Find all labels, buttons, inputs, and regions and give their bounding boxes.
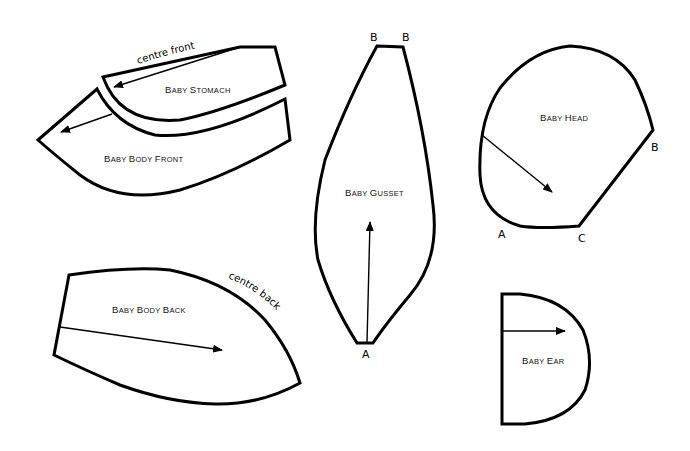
piece-baby-head[interactable]: A B C BABY HEAD (480, 46, 659, 245)
piece-baby-body-back[interactable]: centre back BABY BODY BACK (54, 269, 300, 404)
pattern-sheet: centre front BABY STOMACH BABY BODY FRON… (0, 0, 690, 451)
ear-label: BABY EAR (522, 355, 565, 366)
stomach-label: BABY STOMACH (165, 84, 231, 95)
piece-baby-ear[interactable]: BABY EAR (502, 294, 590, 424)
gusset-point-b-left: B (370, 31, 378, 44)
gusset-point-b-right: B (402, 31, 410, 44)
body-back-label: BABY BODY BACK (112, 304, 186, 315)
body-back-outline (54, 269, 300, 404)
gusset-label: BABY GUSSET (345, 187, 404, 198)
piece-baby-gusset[interactable]: B B A BABY GUSSET (315, 31, 434, 361)
body-front-label: BABY BODY FRONT (104, 153, 184, 164)
piece-baby-stomach[interactable]: centre front BABY STOMACH (103, 40, 285, 121)
head-point-c: C (578, 232, 586, 245)
head-point-b: B (651, 141, 659, 154)
head-outline (480, 46, 653, 228)
head-point-a: A (498, 228, 506, 241)
gusset-point-a: A (362, 348, 370, 361)
head-label: BABY HEAD (540, 112, 589, 123)
